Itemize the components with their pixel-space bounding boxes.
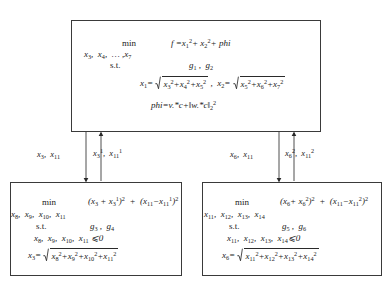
master-phi-definition: phi=v.*c+‖w.*c‖22 <box>151 100 216 111</box>
edge-label-sub2-to-top: x62, x112 <box>285 148 314 159</box>
master-decision-variables: x3, x4, … ,x7 <box>84 50 131 60</box>
radical-icon <box>155 76 161 89</box>
sub2-constraint-list: g5 , g6 <box>282 222 306 232</box>
sub1-decision-variables: x8, x9, x10, x11 <box>11 210 66 220</box>
edge-label-top-to-sub2: x6, x11 <box>230 150 253 160</box>
sub1-objective-function: (x3 + x31)2 + (x11−x111)2 <box>88 196 178 207</box>
sub1-nonnegativity-constraint: x8, x9, x10, x11 ⩽0 <box>34 234 103 244</box>
radical-icon <box>233 76 239 89</box>
sub1-coupling-definition: x3= x82+x92+x102+x112 <box>28 248 118 261</box>
radical-icon <box>237 248 243 261</box>
master-min-label: min <box>122 39 136 48</box>
master-subject-to-label: s.t. <box>110 61 121 70</box>
radical-icon <box>43 248 49 261</box>
edge-label-top-to-sub1: x3, x11 <box>37 150 60 160</box>
sub2-subject-to-label: s.t. <box>229 222 240 231</box>
sub2-nonnegativity-constraint: x11, x12, x13, x14⩽0 <box>227 234 300 244</box>
sub2-coupling-definition: x6= x112+x122+x132+x142 <box>222 248 319 261</box>
master-objective-function: f =x12+ x22+ phi <box>171 38 230 49</box>
sub2-min-label: min <box>235 198 249 207</box>
sub2-objective-function: (x6+ x62)2 + (x11−x112)2 <box>280 196 368 207</box>
sub1-constraint-list: g3 , g4 <box>90 222 114 232</box>
sub1-min-label: min <box>42 198 56 207</box>
master-coupling-definitions: x1= x32+x42+x52 , x2= x52+x62+x72 <box>140 76 285 89</box>
sub2-decision-variables: x11, x12, x13, x14 <box>204 210 265 220</box>
edge-label-sub1-to-top: x31, x111 <box>93 148 122 159</box>
master-constraint-list: g1 , g2 <box>189 61 213 71</box>
sub1-subject-to-label: s.t. <box>36 222 47 231</box>
